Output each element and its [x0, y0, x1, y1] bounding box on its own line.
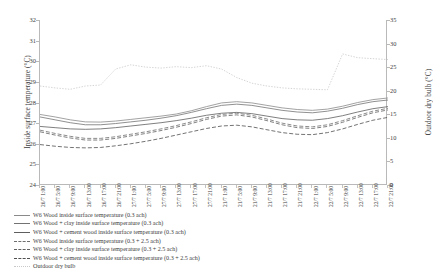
- legend-item-label: W6 Wood inside surface temperature (0.3 …: [33, 238, 161, 245]
- legend-line-swatch-icon: [14, 211, 30, 219]
- x-axis-tick-label: 21/7 21:00: [298, 183, 304, 207]
- y-axis-left-tick-mark: [36, 103, 39, 104]
- y-axis-left-tick-mark: [36, 123, 39, 124]
- y-axis-left-tick-label: 31: [18, 38, 36, 44]
- y-axis-right-tick-label: 5: [390, 158, 408, 164]
- x-axis-tick-label: 26/7 1:00: [41, 186, 47, 207]
- legend-line-swatch-icon: [14, 228, 30, 236]
- y-axis-left-tick-mark: [36, 82, 39, 83]
- legend-item-label: Outdoor dry bulb: [33, 263, 75, 270]
- x-axis-tick-label: 27/7 9:00: [162, 186, 168, 207]
- y-axis-left-tick-label: 26: [18, 141, 36, 147]
- legend-line-swatch-icon: [14, 246, 30, 254]
- y-axis-left-tick-label: 30: [18, 58, 36, 64]
- legend-line-swatch-icon: [14, 254, 30, 262]
- x-axis-tick-label: 27/7 17:00: [193, 183, 199, 207]
- legend-item-label: W6 Wood + cement wood inside surface tem…: [33, 255, 200, 262]
- series-line: [40, 54, 388, 90]
- legend-item[interactable]: W6 Wood + cement wood inside surface tem…: [14, 228, 414, 237]
- x-axis-tick-label: 26/7 21:00: [117, 183, 123, 207]
- x-axis-tick-label: 22/7 5:00: [329, 186, 335, 207]
- y-axis-right-tick-mark: [387, 67, 390, 68]
- y-axis-right-tick-label: 25: [390, 64, 408, 70]
- y-axis-left-tick-mark: [36, 20, 39, 21]
- series-line: [40, 100, 388, 125]
- y-axis-left-tick-label: 25: [18, 161, 36, 167]
- legend-item[interactable]: Outdoor dry bulb: [14, 263, 414, 272]
- x-axis-tick-label: 26/7 9:00: [71, 186, 77, 207]
- x-axis-tick-label: 22/7 9:00: [344, 186, 350, 207]
- x-axis-tick-label: 21/7 5:00: [238, 186, 244, 207]
- x-axis-tick-label: 21/7 9:00: [253, 186, 259, 207]
- x-axis-tick-label: 22/7 13:00: [359, 183, 365, 207]
- legend-line-swatch-icon: [14, 263, 30, 271]
- legend-item[interactable]: W6 Wood inside surface temperature (0.3 …: [14, 237, 414, 246]
- y-axis-right-title: Outdoor dry bulb (°C): [425, 22, 433, 182]
- x-axis-tick-label: 27/7 21:00: [208, 183, 214, 207]
- series-line: [40, 108, 388, 138]
- y-axis-left-tick-mark: [36, 41, 39, 42]
- series-layer: [40, 20, 388, 185]
- legend-item[interactable]: W6 Wood + cement wood inside surface tem…: [14, 254, 414, 263]
- x-axis-tick-label: 26/7 17:00: [102, 183, 108, 207]
- y-axis-left-tick-label: 24: [18, 182, 36, 188]
- x-axis-tick-label: 22/7 21:00: [389, 183, 395, 207]
- y-axis-right-tick-label: 15: [390, 111, 408, 117]
- x-axis-tick-label: 26/7 13:00: [87, 183, 93, 207]
- x-axis-tick-label: 21/7 1:00: [223, 186, 229, 207]
- legend-item[interactable]: W6 Wood inside surface temperature (0.3 …: [14, 211, 414, 220]
- y-axis-right-tick-label: 30: [390, 41, 408, 47]
- y-axis-right-tick-mark: [387, 161, 390, 162]
- x-axis-tick-label: 21/7 13:00: [268, 183, 274, 207]
- y-axis-left-tick-label: 32: [18, 17, 36, 23]
- legend-item-label: W6 Wood + cement wood inside surface tem…: [33, 229, 186, 236]
- y-axis-right-tick-label: 35: [390, 17, 408, 23]
- y-axis-left-tick-label: 27: [18, 120, 36, 126]
- x-axis-tick-label: 27/7 1:00: [132, 186, 138, 207]
- x-axis-tick-label: 27/7 5:00: [147, 186, 153, 207]
- legend-item-label: W6 Wood inside surface temperature (0.3 …: [33, 212, 147, 219]
- y-axis-left-tick-mark: [36, 164, 39, 165]
- y-axis-right-tick-label: 20: [390, 88, 408, 94]
- y-axis-right-tick-mark: [387, 138, 390, 139]
- x-axis-tick-label: 27/7 13:00: [177, 183, 183, 207]
- y-axis-left-tick-label: 29: [18, 79, 36, 85]
- x-axis-tick-label: 26/7 5:00: [56, 186, 62, 207]
- legend-item[interactable]: W6 Wood + clay inside surface temperatur…: [14, 220, 414, 229]
- y-axis-left-tick-mark: [36, 61, 39, 62]
- y-axis-right-tick-mark: [387, 91, 390, 92]
- chart-legend: W6 Wood inside surface temperature (0.3 …: [14, 211, 414, 271]
- legend-item[interactable]: W6 Wood + clay inside surface temperatur…: [14, 245, 414, 254]
- series-line: [40, 98, 388, 122]
- y-axis-right-tick-mark: [387, 114, 390, 115]
- y-axis-left-tick-label: 28: [18, 100, 36, 106]
- y-axis-right-tick-mark: [387, 44, 390, 45]
- legend-item-label: W6 Wood + clay inside surface temperatur…: [33, 246, 177, 253]
- y-axis-left-tick-mark: [36, 144, 39, 145]
- plot-area: [39, 20, 387, 185]
- legend-item-label: W6 Wood + clay inside surface temperatur…: [33, 220, 163, 227]
- x-axis-tick-label: 22/7 1:00: [314, 186, 320, 207]
- legend-line-swatch-icon: [14, 237, 30, 245]
- legend-line-swatch-icon: [14, 220, 30, 228]
- y-axis-right-tick-mark: [387, 20, 390, 21]
- x-axis-tick-label: 21/7 17:00: [283, 183, 289, 207]
- y-axis-right-tick-label: 10: [390, 135, 408, 141]
- x-axis-tick-label: 22/7 17:00: [374, 183, 380, 207]
